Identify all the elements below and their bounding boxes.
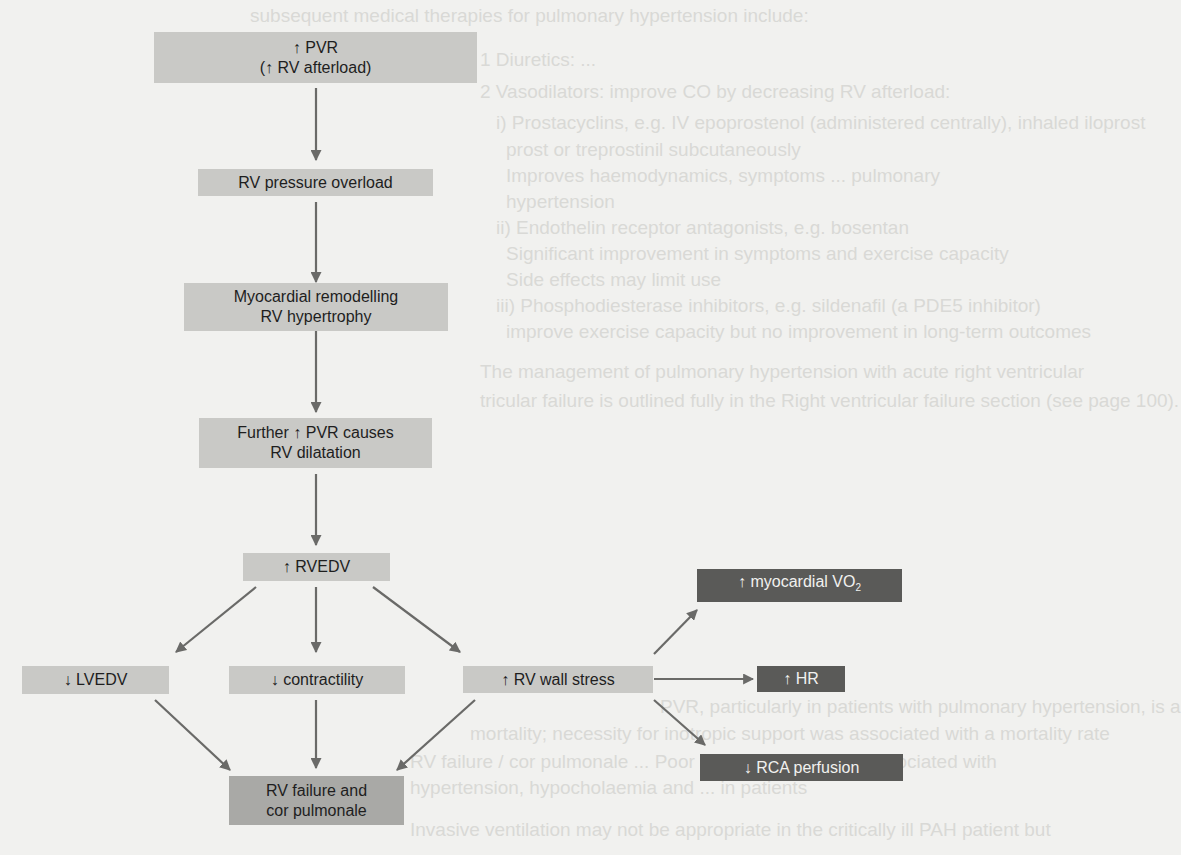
node-increased-hr: ↑ HR (757, 666, 845, 692)
node-label: ↑ myocardial VO2 (738, 572, 861, 598)
node-label-subscript: 2 (855, 583, 861, 594)
node-label: (↑ RV afterload) (260, 58, 372, 78)
node-label: Myocardial remodelling (234, 287, 399, 307)
node-label-text: ↑ myocardial VO (738, 573, 855, 590)
node-label: Further ↑ PVR causes (237, 423, 394, 443)
node-decreased-contractility: ↓ contractility (229, 666, 405, 694)
node-decreased-rca-perfusion: ↓ RCA perfusion (700, 754, 903, 781)
node-label: ↑ RV wall stress (501, 670, 615, 690)
node-label: RV hypertrophy (234, 307, 399, 327)
node-label: RV pressure overload (238, 173, 392, 193)
node-increased-myocardial-vo2: ↑ myocardial VO2 (697, 569, 902, 602)
arrow-wallstress-to-failure (397, 700, 475, 770)
arrow-rvedv-to-wallstress (373, 587, 460, 652)
node-label: RV dilatation (237, 443, 394, 463)
arrow-wallstress-to-vo2 (654, 610, 697, 654)
node-label: ↓ LVEDV (64, 670, 128, 690)
arrow-rvedv-to-lvedv (176, 587, 256, 652)
node-increased-rvedv: ↑ RVEDV (243, 553, 390, 581)
node-label: ↑ PVR (260, 38, 372, 58)
node-rv-pressure-overload: RV pressure overload (198, 169, 433, 196)
node-decreased-lvedv: ↓ LVEDV (22, 666, 169, 694)
node-myocardial-remodelling: Myocardial remodelling RV hypertrophy (184, 283, 448, 331)
arrow-lvedv-to-failure (155, 700, 230, 770)
node-label: RV failure and (266, 781, 367, 801)
node-increased-pvr: ↑ PVR (↑ RV afterload) (154, 32, 477, 83)
node-rv-failure-cor-pulmonale: RV failure and cor pulmonale (229, 776, 404, 825)
node-label: cor pulmonale (266, 801, 367, 821)
node-label: ↑ RVEDV (283, 557, 350, 577)
node-rv-dilatation: Further ↑ PVR causes RV dilatation (199, 418, 432, 468)
node-label: ↓ RCA perfusion (744, 758, 860, 778)
node-label: ↓ contractility (271, 670, 363, 690)
node-label: ↑ HR (783, 669, 819, 689)
node-increased-rv-wall-stress: ↑ RV wall stress (463, 666, 653, 693)
arrow-wallstress-to-rca (654, 700, 705, 745)
